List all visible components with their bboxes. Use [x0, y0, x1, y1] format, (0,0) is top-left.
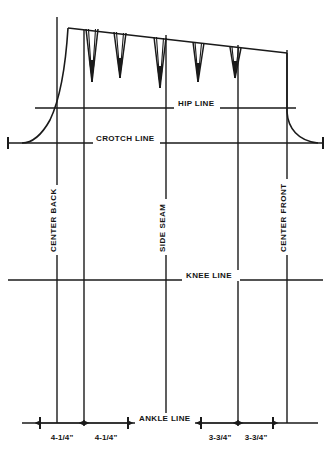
center-back-label: CENTER BACK: [49, 188, 58, 252]
pattern-diagram: HIP LINE CROTCH LINE KNEE LINE ANKLE LIN…: [0, 0, 331, 473]
waist-darts: [86, 29, 241, 88]
back-crotch-curve: [22, 28, 68, 143]
dart-1: [86, 29, 98, 82]
dim-back-1-label: 4-1/4": [51, 433, 74, 442]
waistline-edge: [68, 28, 287, 53]
dim-front-1-label: 3-3/4": [209, 433, 232, 442]
dart-5: [230, 47, 241, 78]
dart-4: [193, 42, 204, 82]
dart-2: [114, 32, 126, 78]
dimension-labels: 4-1/4" 4-1/4" 3-3/4" 3-3/4": [51, 433, 268, 442]
dim-front-2-label: 3-3/4": [245, 433, 268, 442]
front-crotch-curve: [287, 53, 318, 143]
dart-3: [154, 37, 166, 88]
center-front-label: CENTER FRONT: [279, 183, 288, 252]
knee-line-label: KNEE LINE: [186, 271, 232, 280]
side-seam-label: SIDE SEAM: [158, 203, 167, 252]
dim-back-2-label: 4-1/4": [95, 433, 118, 442]
pattern-svg-canvas: HIP LINE CROTCH LINE KNEE LINE ANKLE LIN…: [0, 0, 331, 473]
pattern-outline: [22, 28, 318, 143]
hip-line-label: HIP LINE: [178, 99, 215, 108]
crotch-line-label: CROTCH LINE: [96, 134, 155, 143]
ankle-line-label: ANKLE LINE: [139, 414, 191, 423]
